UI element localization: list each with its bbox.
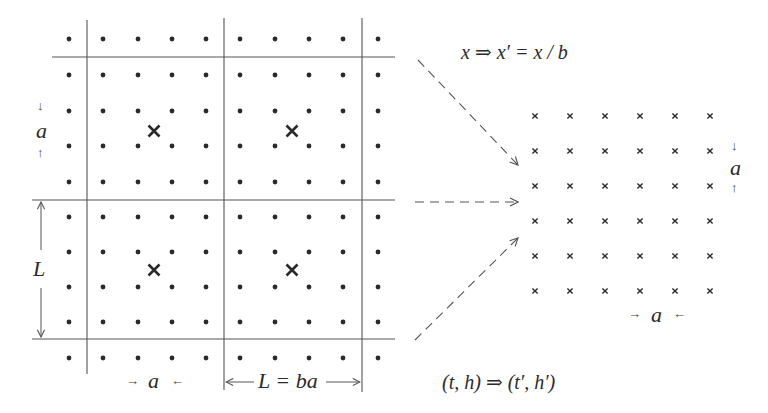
dimension-arrows [41, 202, 360, 382]
lattice-site-dot [376, 73, 381, 78]
equation-coordinate-rescaling: x ⇒ x′ = x / b [461, 40, 568, 64]
lattice-site-dot [170, 37, 175, 42]
lattice-site-dot [170, 73, 175, 78]
rescaled-site-cross-icon [567, 288, 572, 293]
lattice-site-dot [376, 285, 381, 290]
lattice-site-dot [307, 215, 312, 220]
lattice-site-dot [67, 144, 72, 149]
rescaled-site-cross-icon [637, 183, 642, 188]
lattice-site-dot [238, 37, 243, 42]
lattice-site-dot [136, 285, 141, 290]
lattice-site-dot [101, 37, 106, 42]
rescaled-site-cross-icon [532, 183, 537, 188]
up-arrow-icon: ↑ [37, 145, 44, 161]
lattice-site-dot [204, 250, 209, 255]
left-arrow-icon: ← [171, 373, 184, 389]
rescaled-site-cross-icon [707, 113, 712, 118]
lattice-site-dot [136, 37, 141, 42]
rescaled-site-cross-icon [567, 218, 572, 223]
rescaled-site-cross-icon [602, 113, 607, 118]
lattice-site-dot [376, 250, 381, 255]
lattice-site-dot [67, 109, 72, 114]
lattice-site-dot [204, 180, 209, 185]
lattice-site-dot [307, 109, 312, 114]
lattice-site-dot [67, 73, 72, 78]
lattice-site-dot [341, 37, 346, 42]
rescaled-site-cross-icon [672, 148, 677, 153]
lattice-site-dot [307, 250, 312, 255]
rescaled-site-cross-icon [637, 113, 642, 118]
lattice-site-dot [101, 144, 106, 149]
rescaled-lattice-sites [532, 113, 712, 293]
rescaled-site-cross-icon [602, 253, 607, 258]
rescaled-site-cross-icon [602, 288, 607, 293]
block-grid-lines [32, 18, 395, 392]
lattice-site-dot [273, 356, 278, 361]
right-label-a-vertical: a [730, 155, 741, 181]
lattice-site-dot [204, 144, 209, 149]
rescaled-site-cross-icon [567, 113, 572, 118]
lattice-site-dot [170, 180, 175, 185]
rescaled-site-cross-icon [567, 183, 572, 188]
lattice-site-dot [136, 356, 141, 361]
lattice-site-dot [376, 144, 381, 149]
down-arrow-icon: ↓ [731, 138, 738, 154]
lattice-site-dot [341, 356, 346, 361]
lattice-site-dot [101, 73, 106, 78]
rescaled-site-cross-icon [637, 288, 642, 293]
equation-parameter-flow: (t, h) ⇒ (t′, h′) [442, 370, 555, 394]
lattice-site-dot [273, 215, 278, 220]
rescaled-site-cross-icon [602, 218, 607, 223]
lattice-site-dot [204, 37, 209, 42]
lattice-site-dot [341, 109, 346, 114]
lattice-site-dot [307, 180, 312, 185]
lattice-site-dot [204, 215, 209, 220]
block-spin-cross-icon [287, 265, 298, 276]
lattice-site-dot [307, 144, 312, 149]
lattice-site-dot [101, 250, 106, 255]
lattice-site-dot [67, 37, 72, 42]
lattice-site-dot [238, 356, 243, 361]
lattice-site-dot [67, 215, 72, 220]
lattice-site-dot [376, 109, 381, 114]
lattice-site-dot [67, 356, 72, 361]
lattice-site-dot [341, 320, 346, 325]
rescaled-site-cross-icon [532, 288, 537, 293]
lattice-site-dot [67, 285, 72, 290]
lattice-site-dot [307, 73, 312, 78]
lattice-site-dot [238, 73, 243, 78]
lattice-site-dot [376, 37, 381, 42]
rescaled-site-cross-icon [637, 148, 642, 153]
block-spin-cross-icon [149, 126, 160, 137]
rescaled-site-cross-icon [672, 288, 677, 293]
lattice-site-dot [170, 320, 175, 325]
rescaled-site-cross-icon [707, 288, 712, 293]
left-label-a-vertical: a [36, 118, 47, 144]
rescaled-site-cross-icon [637, 218, 642, 223]
rescaled-site-cross-icon [567, 148, 572, 153]
lattice-site-dot [341, 285, 346, 290]
lattice-site-dot [101, 109, 106, 114]
rescaled-site-cross-icon [602, 148, 607, 153]
mapping-dashed-arrow [418, 60, 518, 165]
lattice-site-dot [307, 356, 312, 361]
lattice-site-dot [376, 180, 381, 185]
lattice-site-dot [67, 320, 72, 325]
lattice-site-dot [273, 180, 278, 185]
lattice-site-dot [67, 180, 72, 185]
lattice-site-dot [136, 180, 141, 185]
lattice-site-dot [273, 73, 278, 78]
lattice-site-dot [273, 144, 278, 149]
lattice-site-dot [170, 356, 175, 361]
lattice-site-dot [307, 320, 312, 325]
rescaled-site-cross-icon [532, 218, 537, 223]
lattice-site-dot [307, 285, 312, 290]
rescaled-site-cross-icon [672, 183, 677, 188]
lattice-site-dot [136, 109, 141, 114]
lattice-site-dot [101, 320, 106, 325]
mapping-dashed-arrow [415, 238, 518, 340]
lattice-site-dot [101, 285, 106, 290]
rescaled-site-cross-icon [532, 253, 537, 258]
block-spin-diagram [0, 0, 768, 413]
lattice-site-dot [67, 250, 72, 255]
